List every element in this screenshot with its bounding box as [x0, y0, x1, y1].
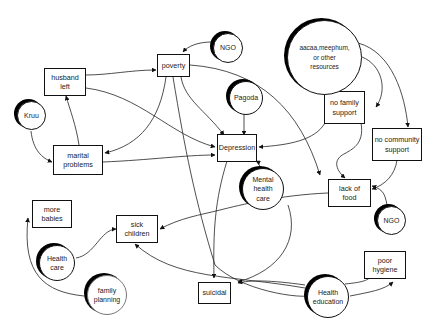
node-mental-health-care: Mental health care [242, 168, 284, 210]
edge-nofamily-depression [259, 123, 325, 147]
node-husband-left: husband left [44, 68, 86, 96]
node-aacaa-resources: aacaa,meephum, or other resources [287, 20, 362, 95]
node-kruu: Kruu [17, 101, 46, 130]
edge-aacaa-nofamily [362, 57, 382, 107]
edge-healthed-poorhygiene-2 [350, 282, 393, 296]
edge-kruu-marital [31, 131, 52, 162]
edge-healthcare-sickchildren [76, 229, 116, 258]
node-poor-hygiene: poor hygiene [364, 251, 406, 279]
node-depression: Depression [217, 134, 257, 162]
node-health-care: Health care [39, 245, 75, 281]
edge-nocommunity-lackfood [372, 160, 397, 189]
edge-poverty-depression [181, 77, 224, 135]
edge-nofamily-lackfood [337, 123, 362, 178]
edge-ngo-poverty [183, 42, 212, 52]
node-suicidal: suicidal [198, 282, 231, 304]
edge-marital-depression [103, 155, 215, 162]
node-no-community-support: no community support [372, 128, 422, 161]
node-more-babies: more babies [32, 200, 72, 228]
node-ngo-bottom: NGO [377, 206, 406, 235]
edge-marital-husband [66, 96, 79, 145]
edge-husband-depression [86, 88, 215, 147]
edge-aacaa-nocommunity [358, 43, 408, 127]
node-ngo-top: NGO [213, 33, 243, 63]
node-marital-problems: marital problems [53, 145, 103, 175]
edge-husband-poverty [85, 70, 156, 75]
edge-depression-suicidal [214, 161, 227, 278]
node-no-family-support: no family support [324, 91, 365, 124]
node-family-planning: family planning [87, 275, 127, 315]
node-lack-of-food: lack of food [328, 179, 371, 207]
node-health-education: Health education [307, 276, 349, 318]
edge-poverty-marital [105, 77, 166, 153]
edge-mhc-suicidal [238, 205, 291, 282]
node-pagoda: Pagoda [229, 81, 263, 115]
node-sick-children: sick children [116, 215, 158, 243]
node-poverty: poverty [157, 54, 190, 77]
